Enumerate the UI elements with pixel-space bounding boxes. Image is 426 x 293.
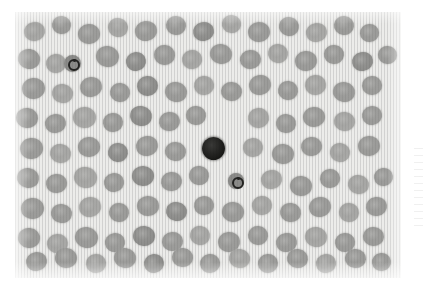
erythrocyte bbox=[112, 246, 137, 270]
erythrocyte bbox=[165, 15, 187, 36]
erythrocyte bbox=[188, 165, 210, 187]
erythrocyte bbox=[373, 167, 394, 187]
erythrocyte bbox=[257, 253, 279, 274]
erythrocyte bbox=[346, 173, 370, 196]
erythrocyte bbox=[221, 201, 245, 224]
erythrocyte bbox=[319, 168, 340, 188]
erythrocyte bbox=[15, 107, 39, 130]
erythrocyte bbox=[333, 111, 356, 132]
erythrocyte bbox=[134, 134, 160, 159]
erythrocyte bbox=[378, 46, 398, 65]
erythrocyte bbox=[78, 75, 104, 99]
erythrocyte bbox=[160, 170, 184, 192]
erythrocyte bbox=[305, 21, 329, 43]
erythrocyte bbox=[171, 247, 194, 268]
micrograph-panel bbox=[15, 12, 401, 278]
erythrocyte bbox=[51, 15, 72, 35]
erythrocyte bbox=[357, 135, 381, 157]
erythrocyte bbox=[164, 141, 187, 162]
erythrocyte bbox=[277, 15, 301, 38]
erythrocyte bbox=[307, 195, 333, 220]
erythrocyte bbox=[289, 175, 313, 197]
erythrocyte bbox=[124, 50, 147, 72]
erythrocyte bbox=[279, 201, 303, 223]
erythrocyte bbox=[344, 248, 366, 268]
erythrocyte bbox=[180, 48, 204, 72]
erythrocyte bbox=[158, 110, 182, 132]
erythrocyte bbox=[362, 75, 383, 95]
erythrocyte bbox=[371, 252, 393, 273]
page-root bbox=[0, 0, 426, 293]
erythrocyte bbox=[25, 250, 49, 272]
inclusion-cell-upper-left bbox=[64, 55, 81, 72]
erythrocyte bbox=[22, 20, 46, 43]
erythrocyte bbox=[136, 195, 159, 216]
erythrocyte bbox=[21, 77, 46, 100]
erythrocyte bbox=[73, 225, 100, 250]
erythrocyte bbox=[247, 225, 269, 246]
erythrocyte bbox=[191, 20, 216, 44]
erythrocyte bbox=[45, 173, 68, 194]
erythrocyte bbox=[300, 136, 323, 157]
erythrocyte bbox=[136, 75, 158, 96]
erythrocyte bbox=[199, 253, 221, 274]
erythrocyte bbox=[153, 44, 175, 65]
erythrocyte bbox=[271, 143, 295, 165]
erythrocyte bbox=[163, 80, 189, 105]
erythrocyte bbox=[323, 44, 345, 65]
erythrocyte bbox=[350, 50, 375, 73]
erythrocyte bbox=[131, 165, 154, 186]
erythrocyte bbox=[72, 165, 99, 191]
erythrocyte bbox=[85, 253, 106, 273]
erythrocyte bbox=[102, 112, 124, 133]
chromatin-dot-icon bbox=[73, 59, 76, 62]
erythrocyte bbox=[109, 82, 131, 103]
erythrocyte bbox=[106, 16, 130, 40]
erythrocyte bbox=[331, 80, 357, 104]
erythrocyte bbox=[242, 136, 265, 158]
erythrocyte bbox=[134, 19, 159, 42]
erythrocyte bbox=[338, 202, 359, 222]
erythrocyte bbox=[294, 50, 319, 73]
margin-scan-artifact bbox=[414, 148, 423, 232]
erythrocyte bbox=[132, 225, 156, 247]
erythrocyte bbox=[239, 49, 262, 70]
erythrocyte bbox=[314, 252, 337, 274]
erythrocyte bbox=[142, 252, 166, 275]
erythrocyte bbox=[15, 166, 40, 190]
erythrocyte bbox=[107, 142, 130, 164]
erythrocyte bbox=[108, 202, 130, 223]
erythrocyte bbox=[275, 112, 298, 134]
erythrocyte bbox=[49, 202, 73, 225]
erythrocyte bbox=[304, 74, 327, 96]
erythrocyte bbox=[259, 168, 284, 191]
erythrocyte bbox=[247, 73, 273, 98]
chromatin-dot-icon bbox=[237, 177, 240, 180]
erythrocyte bbox=[17, 47, 42, 70]
erythrocyte bbox=[360, 104, 384, 127]
erythrocyte bbox=[365, 195, 389, 217]
erythrocyte bbox=[50, 82, 74, 105]
erythrocyte bbox=[304, 225, 329, 248]
erythrocyte bbox=[220, 13, 242, 34]
erythrocyte bbox=[48, 142, 72, 165]
erythrocyte bbox=[77, 195, 103, 219]
erythrocyte bbox=[193, 194, 216, 216]
erythrocyte bbox=[72, 106, 96, 129]
erythrocyte bbox=[277, 80, 300, 102]
ring-form-cell-lower bbox=[228, 173, 244, 189]
erythrocyte bbox=[185, 105, 207, 126]
erythrocyte bbox=[266, 42, 290, 65]
erythrocyte bbox=[19, 137, 45, 161]
erythrocyte bbox=[17, 227, 42, 250]
erythrocyte bbox=[43, 112, 67, 135]
erythrocyte bbox=[54, 247, 78, 270]
erythrocyte bbox=[251, 195, 273, 216]
erythrocyte bbox=[247, 21, 271, 43]
erythrocyte bbox=[328, 141, 351, 163]
erythrocyte bbox=[220, 81, 243, 102]
erythrocyte bbox=[246, 106, 271, 130]
erythrocyte bbox=[360, 24, 380, 43]
erythrocyte bbox=[94, 44, 121, 70]
erythrocyte bbox=[77, 136, 100, 157]
